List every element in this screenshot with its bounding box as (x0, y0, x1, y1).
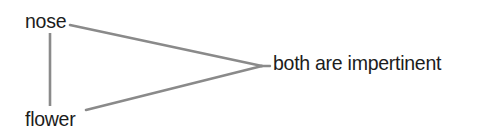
node-label-nose: nose (25, 10, 66, 31)
diagram-canvas: nose flower both are impertinent (0, 0, 477, 139)
edge-nose-to-conclusion-line (70, 25, 262, 66)
edge-flower-to-conclusion-line (86, 66, 262, 110)
node-label-conclusion: both are impertinent (273, 52, 441, 73)
node-label-flower: flower (25, 108, 75, 129)
